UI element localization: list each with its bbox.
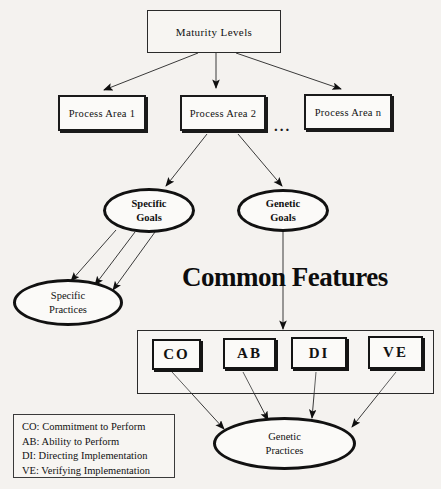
node-specific-goals-label-line2: Goals <box>132 211 167 224</box>
node-cf-co-label: CO <box>163 346 190 363</box>
node-genetic-goals[interactable]: Genetic Goals <box>237 189 329 232</box>
node-cf-di-label: DI <box>309 345 330 362</box>
node-specific-practices-label-line2: Practices <box>49 303 87 316</box>
node-genetic-goals-label-line2: Goals <box>266 211 300 224</box>
node-cf-di[interactable]: DI <box>291 337 347 369</box>
edge-pa2-to-genetic-goals <box>238 134 282 186</box>
node-cf-co[interactable]: CO <box>152 339 201 370</box>
node-process-area-n[interactable]: Process Area n <box>304 94 392 130</box>
node-genetic-practices-label-line2: Practices <box>266 444 304 457</box>
node-genetic-goals-label-line1: Genetic <box>266 197 300 210</box>
edge-sg-to-sp-3 <box>113 232 155 290</box>
abbreviation-legend: CO: Commitment to Perform AB: Ability to… <box>13 414 175 478</box>
process-area-ellipsis: ... <box>274 118 291 135</box>
node-maturity-levels[interactable]: Maturity Levels <box>147 10 281 53</box>
node-maturity-levels-label: Maturity Levels <box>176 26 253 38</box>
edge-sg-to-sp-2 <box>95 232 135 285</box>
node-cf-ab[interactable]: AB <box>223 338 276 369</box>
node-genetic-practices[interactable]: Genetic Practices <box>213 417 356 470</box>
common-features-title: Common Features <box>182 262 388 293</box>
node-specific-practices-label-line1: Specific <box>49 289 87 302</box>
edge-maturity-to-pan <box>236 53 341 89</box>
node-cf-ve[interactable]: VE <box>368 336 423 369</box>
node-cf-ab-label: AB <box>237 345 262 362</box>
node-specific-practices[interactable]: Specific Practices <box>13 279 123 326</box>
legend-row-ve: VE: Verifying Implementation <box>22 464 167 479</box>
node-process-area-1-label: Process Area 1 <box>69 108 136 119</box>
node-specific-goals[interactable]: Specific Goals <box>103 188 195 233</box>
node-process-area-n-label: Process Area n <box>315 107 382 118</box>
edge-maturity-to-pa1 <box>104 53 198 90</box>
legend-row-ab: AB: Ability to Perform <box>22 435 167 450</box>
node-process-area-2-label: Process Area 2 <box>190 108 257 119</box>
edge-sg-to-sp-1 <box>71 230 116 281</box>
node-genetic-practices-label-line1: Genetic <box>266 430 304 443</box>
node-process-area-2[interactable]: Process Area 2 <box>180 95 266 131</box>
node-specific-goals-label-line1: Specific <box>132 197 167 210</box>
node-cf-ve-label: VE <box>383 344 408 361</box>
legend-row-co: CO: Commitment to Perform <box>22 420 167 435</box>
legend-row-di: DI: Directing Implementation <box>22 449 167 464</box>
node-process-area-1[interactable]: Process Area 1 <box>58 95 146 131</box>
diagram-canvas: Maturity Levels Process Area 1 Process A… <box>0 0 441 489</box>
edge-pa2-to-specific-goals <box>166 134 207 186</box>
